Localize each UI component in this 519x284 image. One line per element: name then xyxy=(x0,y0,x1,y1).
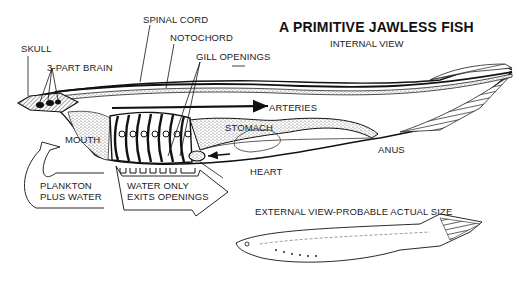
label-plankton-line2: PLUS WATER xyxy=(40,192,102,203)
label-water-line2: EXITS OPENINGS xyxy=(127,192,209,203)
label-plankton: PLANKTON PLUS WATER xyxy=(40,181,102,203)
label-brain: 3-PART BRAIN xyxy=(47,63,113,73)
label-gill-openings: GILL OPENINGS xyxy=(196,52,270,62)
label-anus: ANUS xyxy=(378,145,405,155)
label-stomach: STOMACH xyxy=(225,123,273,133)
label-external-view: EXTERNAL VIEW-PROBABLE ACTUAL SIZE xyxy=(255,207,452,217)
external-view-fish xyxy=(236,214,482,262)
gill-openings-row xyxy=(120,168,195,173)
label-notochord: NOTOCHORD xyxy=(170,33,233,43)
ventral-fin xyxy=(400,74,512,132)
stomach xyxy=(190,118,378,150)
label-water-exit: WATER ONLY EXITS OPENINGS xyxy=(127,181,209,203)
label-arteries: ARTERIES xyxy=(269,103,317,113)
label-skull: SKULL xyxy=(21,44,52,54)
diagram-title: A PRIMITIVE JAWLESS FISH xyxy=(279,19,474,35)
diagram-subtitle: INTERNAL VIEW xyxy=(330,38,404,49)
label-heart: HEART xyxy=(250,167,283,177)
label-spinal-cord: SPINAL CORD xyxy=(143,15,208,25)
heart-organ xyxy=(189,151,230,161)
label-mouth: MOUTH xyxy=(65,135,100,145)
